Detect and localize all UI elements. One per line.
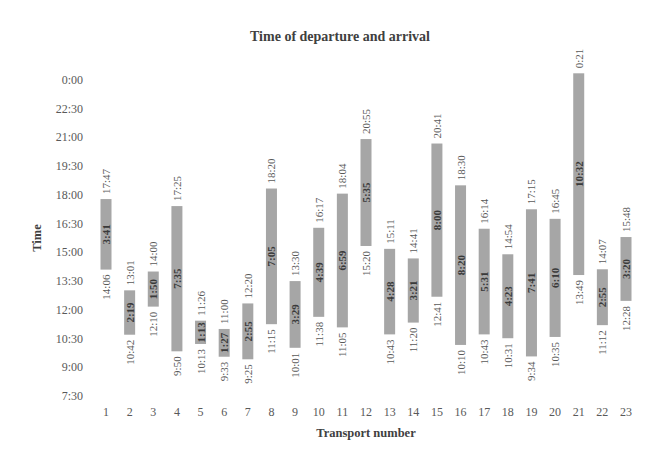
x-tick-label: 3 (150, 405, 156, 419)
x-tick-label: 19 (525, 405, 537, 419)
transport-bar-19: 17:159:347:41 (525, 179, 537, 381)
arrival-label: 14:00 (147, 241, 159, 267)
transport-bar-12: 20:5515:205:35 (360, 108, 372, 276)
departure-label: 10:31 (502, 343, 514, 368)
transport-bar-22: 14:0711:122:55 (596, 239, 608, 355)
arrival-label: 17:25 (171, 176, 183, 202)
x-tick-label: 1 (103, 405, 109, 419)
transport-bar-13: 15:1110:434:28 (384, 219, 396, 364)
chart-title: Time of departure and arrival (250, 29, 430, 44)
x-tick-label: 22 (596, 405, 608, 419)
transport-bar-10: 16:1711:384:39 (313, 197, 325, 346)
x-tick-label: 13 (384, 405, 396, 419)
transport-bar-2: 13:0110:422:19 (124, 260, 136, 364)
departure-label: 10:10 (455, 349, 467, 375)
x-tick-label: 2 (127, 405, 133, 419)
duration-label: 8:00 (431, 210, 443, 231)
arrival-label: 14:41 (407, 228, 419, 253)
x-tick-label: 17 (478, 405, 490, 419)
x-tick-label: 10 (313, 405, 325, 419)
departure-label: 10:42 (124, 340, 136, 365)
departure-label: 10:43 (478, 339, 490, 365)
transport-bar-9: 13:3010:013:29 (289, 251, 301, 378)
duration-label: 6:10 (549, 267, 561, 288)
transport-bar-4: 17:259:507:35 (171, 176, 183, 376)
arrival-label: 17:15 (525, 179, 537, 205)
departure-label: 12:28 (620, 305, 632, 331)
departure-label: 10:01 (289, 353, 301, 378)
transport-bar-14: 14:4111:203:21 (407, 228, 419, 352)
x-tick-label: 15 (431, 405, 443, 419)
y-axis-label: Time (30, 224, 44, 252)
duration-label: 4:39 (313, 262, 325, 283)
departure-label: 11:12 (596, 330, 608, 355)
duration-label: 8:20 (455, 255, 467, 276)
departure-label: 10:35 (549, 341, 561, 367)
duration-label: 1:27 (218, 332, 230, 353)
departure-label: 9:50 (171, 356, 183, 376)
range-bar-chart: Time of departure and arrival 0:0022:302… (0, 0, 659, 469)
arrival-label: 16:14 (478, 198, 490, 224)
departure-label: 11:05 (336, 332, 348, 357)
departure-label: 12:41 (431, 302, 443, 327)
arrival-label: 16:17 (313, 197, 325, 223)
duration-label: 3:21 (407, 280, 419, 300)
duration-label: 4:28 (384, 281, 396, 302)
duration-label: 10:32 (573, 161, 585, 187)
y-tick-label: 16:30 (56, 217, 83, 231)
duration-label: 5:35 (360, 182, 372, 203)
x-tick-label: 9 (292, 405, 298, 419)
arrival-label: 0:21 (573, 49, 585, 69)
duration-label: 1:13 (195, 322, 207, 343)
x-axis-label: Transport number (316, 426, 416, 440)
y-tick-label: 12:00 (56, 303, 83, 317)
transport-bar-5: 11:2610:131:13 (195, 291, 207, 375)
y-axis: 0:0022:3021:0019:3018:0016:3015:0013:301… (56, 73, 83, 403)
transport-bar-21: 0:2113:4910:32 (573, 49, 585, 305)
y-tick-label: 7:30 (62, 389, 83, 403)
departure-label: 13:49 (573, 280, 585, 306)
duration-label: 2:55 (596, 287, 608, 308)
transport-bar-3: 14:0012:101:50 (147, 241, 159, 337)
departure-label: 14:06 (100, 274, 112, 300)
departure-label: 9:33 (218, 361, 230, 381)
arrival-label: 14:07 (596, 239, 608, 265)
arrival-label: 16:45 (549, 188, 561, 214)
y-tick-label: 21:00 (56, 130, 83, 144)
arrival-label: 17:47 (100, 169, 112, 195)
duration-label: 5:31 (478, 271, 490, 291)
x-tick-label: 20 (549, 405, 561, 419)
y-tick-label: 18:00 (56, 188, 83, 202)
x-tick-label: 21 (573, 405, 585, 419)
x-tick-label: 8 (268, 405, 274, 419)
arrival-label: 18:30 (455, 155, 467, 181)
departure-label: 11:20 (407, 327, 419, 352)
arrival-label: 14:54 (502, 224, 514, 250)
departure-label: 10:43 (384, 339, 396, 365)
x-tick-label: 16 (455, 405, 467, 419)
transport-bar-18: 14:5410:314:23 (502, 224, 514, 369)
duration-label: 3:20 (620, 258, 632, 279)
transport-bar-11: 18:0411:056:59 (336, 163, 348, 357)
x-tick-label: 12 (360, 405, 372, 419)
departure-label: 9:34 (525, 361, 537, 381)
departure-label: 9:25 (242, 364, 254, 384)
x-tick-label: 18 (502, 405, 514, 419)
y-tick-label: 22:30 (56, 102, 83, 116)
x-tick-label: 14 (407, 405, 419, 419)
transport-bar-1: 17:4714:063:41 (100, 169, 112, 300)
departure-label: 11:15 (265, 329, 277, 354)
departure-label: 10:13 (195, 348, 207, 374)
transport-bar-6: 11:009:331:27 (218, 299, 230, 381)
x-tick-label: 7 (245, 405, 251, 419)
y-tick-label: 9:00 (62, 360, 83, 374)
transport-bar-16: 18:3010:108:20 (455, 155, 467, 375)
arrival-label: 20:41 (431, 113, 443, 138)
duration-label: 4:23 (502, 286, 514, 307)
arrival-label: 12:20 (242, 273, 254, 299)
y-tick-label: 13:30 (56, 274, 83, 288)
y-tick-label: 10:30 (56, 332, 83, 346)
transport-bar-8: 18:2011:157:05 (265, 158, 277, 354)
duration-label: 6:59 (336, 250, 348, 271)
arrival-label: 15:48 (620, 206, 632, 232)
